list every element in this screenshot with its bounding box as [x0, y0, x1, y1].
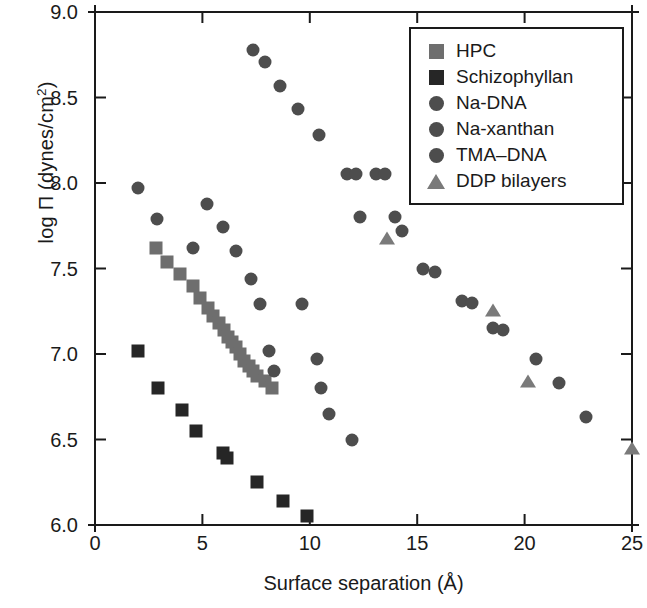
y-tick-label: 7.0 — [18, 343, 78, 366]
data-point-na-dna — [552, 377, 565, 390]
data-point-hpc — [173, 267, 186, 280]
x-tick-label: 20 — [495, 532, 555, 555]
legend-marker-icon — [423, 70, 449, 85]
data-point-tma-dna — [349, 168, 362, 181]
data-point-ddp-bilayers — [624, 442, 640, 455]
data-point-tma-dna — [354, 211, 367, 224]
data-point-na-dna — [416, 262, 429, 275]
x-axis-label: Surface separation (Å) — [95, 572, 632, 595]
legend-item-ddp-bilayers: DDP bilayers — [423, 168, 612, 194]
data-point-na-xanthan — [311, 353, 324, 366]
legend-item-label: TMA–DNA — [456, 144, 547, 166]
x-tick-label: 0 — [65, 532, 125, 555]
y-tick-label: 9.0 — [18, 1, 78, 24]
data-point-na-xanthan — [268, 365, 281, 378]
legend-marker-icon — [423, 122, 449, 137]
legend-item-na-xanthan: Na-xanthan — [423, 116, 612, 142]
data-point-schizophyllan — [276, 495, 289, 508]
legend-marker-icon — [423, 96, 449, 111]
data-point-ddp-bilayers — [379, 231, 395, 244]
data-point-na-dna — [396, 224, 409, 237]
x-tick-label: 25 — [602, 532, 647, 555]
data-point-na-xanthan — [254, 298, 267, 311]
legend: HPCSchizophyllanNa-DNANa-xanthanTMA–DNAD… — [409, 27, 624, 205]
data-point-schizophyllan — [152, 382, 165, 395]
data-point-ddp-bilayers — [520, 375, 536, 388]
data-point-schizophyllan — [175, 404, 188, 417]
data-point-na-dna — [497, 324, 510, 337]
data-point-hpc — [160, 255, 173, 268]
data-point-na-xanthan — [131, 182, 144, 195]
y-tick-label: 8.0 — [18, 172, 78, 195]
legend-item-schizophyllan: Schizophyllan — [423, 64, 612, 90]
data-point-ddp-bilayers — [485, 303, 501, 316]
legend-item-label: Na-DNA — [456, 92, 527, 114]
data-point-schizophyllan — [221, 452, 234, 465]
data-point-na-xanthan — [216, 221, 229, 234]
data-point-tma-dna — [273, 79, 286, 92]
x-tick-label: 5 — [172, 532, 232, 555]
x-tick-label: 10 — [280, 532, 340, 555]
data-point-schizophyllan — [189, 424, 202, 437]
data-point-na-dna — [388, 211, 401, 224]
data-point-na-xanthan — [262, 344, 275, 357]
legend-item-label: HPC — [456, 40, 496, 62]
data-point-na-xanthan — [151, 212, 164, 225]
data-point-na-dna — [530, 353, 543, 366]
data-point-na-xanthan — [186, 241, 199, 254]
y-axis-label-text: log Π (dynes/cm — [35, 96, 57, 244]
data-point-na-xanthan — [323, 407, 336, 420]
legend-item-label: Na-xanthan — [456, 118, 554, 140]
y-tick-label: 8.5 — [18, 86, 78, 109]
data-point-na-xanthan — [229, 245, 242, 258]
data-point-na-xanthan — [244, 272, 257, 285]
data-point-tma-dna — [313, 129, 326, 142]
legend-item-tma-dna: TMA–DNA — [423, 142, 612, 168]
data-point-na-xanthan — [200, 197, 213, 210]
legend-marker-icon — [423, 174, 449, 189]
legend-item-label: Schizophyllan — [456, 66, 573, 88]
data-point-tma-dna — [291, 103, 304, 116]
data-point-na-dna — [579, 411, 592, 424]
legend-item-na-dna: Na-DNA — [423, 90, 612, 116]
y-tick-label: 7.5 — [18, 257, 78, 280]
data-point-na-dna — [429, 265, 442, 278]
data-point-schizophyllan — [300, 510, 313, 523]
data-point-hpc — [266, 382, 279, 395]
data-point-na-dna — [378, 168, 391, 181]
data-point-na-xanthan — [345, 433, 358, 446]
y-tick-label: 6.5 — [18, 428, 78, 451]
data-point-schizophyllan — [131, 344, 144, 357]
data-point-tma-dna — [258, 55, 271, 68]
data-point-schizophyllan — [251, 476, 264, 489]
data-point-tma-dna — [246, 43, 259, 56]
data-point-hpc — [150, 241, 163, 254]
legend-marker-icon — [423, 44, 449, 59]
data-point-na-dna — [465, 296, 478, 309]
data-point-na-xanthan — [314, 382, 327, 395]
x-tick-label: 15 — [387, 532, 447, 555]
data-point-na-xanthan — [296, 298, 309, 311]
y-axis-label: log Π (dynes/cm2) — [34, 42, 59, 282]
legend-item-hpc: HPC — [423, 38, 612, 64]
legend-marker-icon — [423, 148, 449, 163]
legend-item-label: DDP bilayers — [456, 170, 567, 192]
